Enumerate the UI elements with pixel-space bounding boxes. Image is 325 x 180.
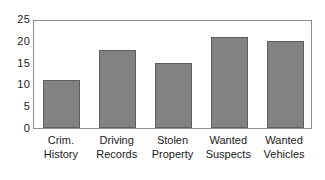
bar <box>267 41 304 128</box>
bar <box>43 80 80 128</box>
x-axis-category-label-line: Driving <box>89 133 145 147</box>
y-axis-tick-label: 25 <box>0 14 30 25</box>
bar <box>211 37 248 128</box>
x-axis: Crim.HistoryDrivingRecordsStolenProperty… <box>33 133 312 177</box>
x-axis-category-label: StolenProperty <box>145 133 201 161</box>
x-axis-category-label: WantedVehicles <box>256 133 312 161</box>
bar-chart: 0510152025 Crim.HistoryDrivingRecordsSto… <box>0 0 325 180</box>
bar <box>155 63 192 128</box>
y-axis-tick-label: 0 <box>0 123 30 134</box>
x-axis-category-label-line: Property <box>145 147 201 161</box>
x-axis-category-label-line: Vehicles <box>256 147 312 161</box>
x-axis-category-label: DrivingRecords <box>89 133 145 161</box>
y-axis-tick-label: 15 <box>0 58 30 69</box>
x-axis-category-label-line: Crim. <box>33 133 89 147</box>
y-axis: 0510152025 <box>0 0 30 180</box>
x-axis-category-label: WantedSuspects <box>200 133 256 161</box>
y-axis-tick-label: 20 <box>0 36 30 47</box>
x-axis-category-label-line: Wanted <box>200 133 256 147</box>
x-axis-category-label-line: History <box>33 147 89 161</box>
bar <box>99 50 136 128</box>
x-axis-category-label: Crim.History <box>33 133 89 161</box>
x-axis-category-label-line: Records <box>89 147 145 161</box>
x-axis-category-label-line: Stolen <box>145 133 201 147</box>
y-axis-tick-label: 10 <box>0 79 30 90</box>
x-axis-category-label-line: Wanted <box>256 133 312 147</box>
y-axis-tick-label: 5 <box>0 101 30 112</box>
plot-inner <box>34 21 311 128</box>
plot-area <box>33 20 312 129</box>
x-axis-category-label-line: Suspects <box>200 147 256 161</box>
